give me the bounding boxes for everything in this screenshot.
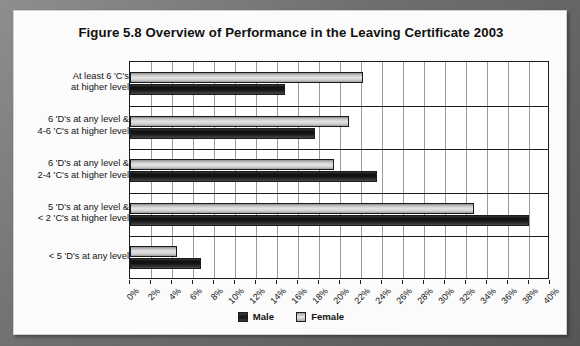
plot-area [129, 61, 549, 279]
category-label-line: < 5 'D's at any level [0, 251, 129, 263]
legend-item-female: Female [296, 311, 344, 322]
category-label: 6 'D's at any level &2-4 'C's at higher … [0, 158, 129, 181]
figure-outer-frame: Figure 5.8 Overview of Performance in th… [0, 0, 580, 346]
x-tick-mark [549, 280, 550, 284]
x-tick-mark [423, 280, 424, 284]
gridline [424, 62, 425, 278]
x-tick-mark [528, 280, 529, 284]
chart-legend: MaleFemale [14, 311, 568, 322]
legend-swatch-female [296, 312, 306, 322]
category-label-line: At least 6 'C's [0, 71, 129, 83]
x-tick-mark [276, 280, 277, 284]
category-label-line: 4-6 'C's at higher level [0, 126, 129, 138]
bar-female [130, 159, 334, 170]
x-tick-mark [150, 280, 151, 284]
gridline [340, 62, 341, 278]
category-label-line: < 2 'C's at higher level [0, 213, 129, 225]
x-tick-mark [486, 280, 487, 284]
legend-swatch-male [238, 312, 248, 322]
x-tick-mark [297, 280, 298, 284]
x-tick-mark [381, 280, 382, 284]
x-tick-mark [171, 280, 172, 284]
bar-male [130, 215, 529, 226]
x-tick-mark [339, 280, 340, 284]
x-tick-mark [318, 280, 319, 284]
bar-female [130, 116, 349, 127]
x-tick-mark [129, 280, 130, 284]
bar-female [130, 203, 474, 214]
bar-female [130, 72, 363, 83]
value-axis-labels: 0%2%4%6%8%10%12%14%16%18%20%22%24%26%28%… [129, 280, 549, 314]
legend-label: Female [311, 311, 344, 322]
gridline [403, 62, 404, 278]
gridline [508, 62, 509, 278]
gridline [466, 62, 467, 278]
category-label: At least 6 'C'sat higher level [0, 71, 129, 94]
bar-female [130, 246, 177, 257]
gridline [529, 62, 530, 278]
bar-male [130, 84, 285, 95]
bar-male [130, 128, 315, 139]
category-separator [130, 193, 548, 194]
x-tick-mark [444, 280, 445, 284]
bar-male [130, 258, 201, 269]
x-tick-mark [192, 280, 193, 284]
chart-title: Figure 5.8 Overview of Performance in th… [14, 25, 568, 40]
category-label: 6 'D's at any level &4-6 'C's at higher … [0, 114, 129, 137]
gridline [445, 62, 446, 278]
x-tick-mark [234, 280, 235, 284]
category-label-line: at higher level [0, 82, 129, 94]
category-separator [130, 106, 548, 107]
category-label-line: 2-4 'C's at higher level [0, 170, 129, 182]
figure-panel: Figure 5.8 Overview of Performance in th… [13, 10, 567, 335]
category-label-line: 6 'D's at any level & [0, 114, 129, 126]
category-separator [130, 149, 548, 150]
category-label-line: 5 'D's at any level & [0, 202, 129, 214]
category-label: 5 'D's at any level &< 2 'C's at higher … [0, 202, 129, 225]
x-tick-mark [360, 280, 361, 284]
category-separator [130, 236, 548, 237]
gridline [487, 62, 488, 278]
category-axis-labels: At least 6 'C'sat higher level6 'D's at … [0, 61, 129, 279]
gridline [382, 62, 383, 278]
x-tick-mark [213, 280, 214, 284]
x-tick-mark [507, 280, 508, 284]
bar-male [130, 171, 377, 182]
x-tick-mark [465, 280, 466, 284]
x-tick-mark [255, 280, 256, 284]
category-label: < 5 'D's at any level [0, 251, 129, 263]
gridline [361, 62, 362, 278]
x-tick-mark [402, 280, 403, 284]
legend-item-male: Male [238, 311, 274, 322]
category-label-line: 6 'D's at any level & [0, 158, 129, 170]
legend-label: Male [253, 311, 274, 322]
